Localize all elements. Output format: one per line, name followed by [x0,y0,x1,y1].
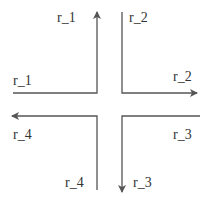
label-r2-out: r_2 [173,70,192,84]
intersection-diagram [0,0,207,202]
label-r2-in: r_2 [129,11,148,25]
label-r3-out: r_3 [133,176,152,190]
label-r4-out: r_4 [13,128,32,142]
label-r3-in: r_3 [173,128,192,142]
label-r4-in: r_4 [65,176,84,190]
label-r1-out: r_1 [57,11,76,25]
label-r1-in: r_1 [13,74,32,88]
